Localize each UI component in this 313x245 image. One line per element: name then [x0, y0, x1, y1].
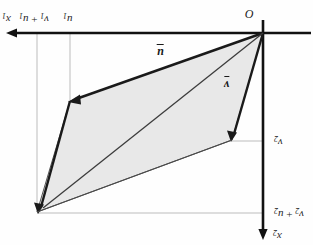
axis-vertical-arrowhead	[258, 229, 267, 240]
axis-label-x2: x2	[273, 228, 282, 242]
axis-label-x1: x1	[2, 11, 11, 25]
vector-v-label: v	[224, 79, 229, 91]
figure-canvas	[0, 0, 313, 245]
origin-label: O	[245, 8, 254, 20]
tick-label-v2-plus-u2: v2 + u2	[274, 206, 304, 220]
tick-label-v1-plus-u1: v1 + u1	[19, 11, 49, 25]
tick-label-u1: u1	[63, 11, 72, 25]
tick-label-v2: v2	[274, 134, 283, 148]
axis-horizontal-arrowhead	[6, 29, 17, 38]
vector-u-label: u	[157, 47, 164, 59]
axis-vertical	[258, 20, 267, 240]
axis-horizontal	[6, 29, 311, 38]
vector-parallelogram-figure: x1 v1 + u1 u1 O u v v2 v2 + u2 x2	[0, 0, 313, 245]
